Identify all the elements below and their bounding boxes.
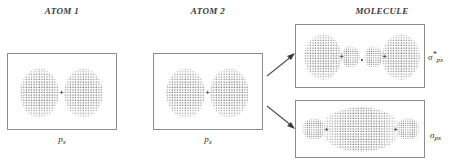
atom-1-orbital-label: px — [42, 134, 82, 146]
antibonding-orbital-render: + + — [296, 25, 424, 87]
nucleus-marker-left: + — [339, 54, 344, 59]
p-orbital-lobe-right — [210, 68, 249, 118]
p-orbital-lobe-left — [166, 68, 205, 118]
atom-2-orbital-label: px — [188, 134, 228, 146]
antibonding-orbital-panel: + + — [295, 24, 425, 88]
arrow-down-right — [266, 104, 296, 130]
sigma-central-lobe — [321, 107, 401, 152]
nucleus-marker: + — [59, 90, 64, 95]
atom-1-orbital-render: + — [8, 54, 116, 129]
orbital-diagram-figure: ATOM 1 ATOM 2 MOLECULE + px + px — [0, 0, 467, 168]
orbital-label-subscript: px — [436, 56, 443, 64]
bonding-orbital-label: σpx — [430, 130, 464, 142]
p-orbital-lobe-left — [20, 68, 59, 118]
heading-molecule: MOLECULE — [342, 6, 422, 16]
atom-2-orbital-panel: + — [153, 53, 263, 130]
nucleus-marker: + — [205, 90, 210, 95]
heading-atom-2: ATOM 2 — [168, 6, 248, 16]
p-orbital-lobe-right — [64, 68, 103, 118]
sigma-star-outer-lobe-right — [382, 34, 420, 80]
nucleus-marker-right: + — [382, 54, 387, 59]
nodal-plane-dot — [361, 59, 363, 61]
atom-1-orbital-panel: + — [7, 53, 117, 130]
orbital-label-subscript: x — [209, 138, 212, 146]
orbital-label-subscript: px — [434, 134, 441, 142]
sigma-star-outer-lobe-left — [304, 34, 342, 80]
sigma-star-inner-lobe-right — [364, 46, 383, 68]
nucleus-marker-right: + — [393, 127, 398, 132]
nucleus-marker-left: + — [324, 127, 329, 132]
atom-2-orbital-render: + — [154, 54, 262, 129]
orbital-label-subscript: x — [63, 138, 66, 146]
sigma-outer-lobe-right — [396, 118, 420, 140]
heading-atom-1: ATOM 1 — [22, 6, 102, 16]
arrow-up-right — [266, 52, 296, 78]
bonding-orbital-panel: + + — [295, 100, 425, 158]
bonding-orbital-render: + + — [296, 101, 424, 157]
antibonding-orbital-label: σ*px — [428, 50, 464, 64]
